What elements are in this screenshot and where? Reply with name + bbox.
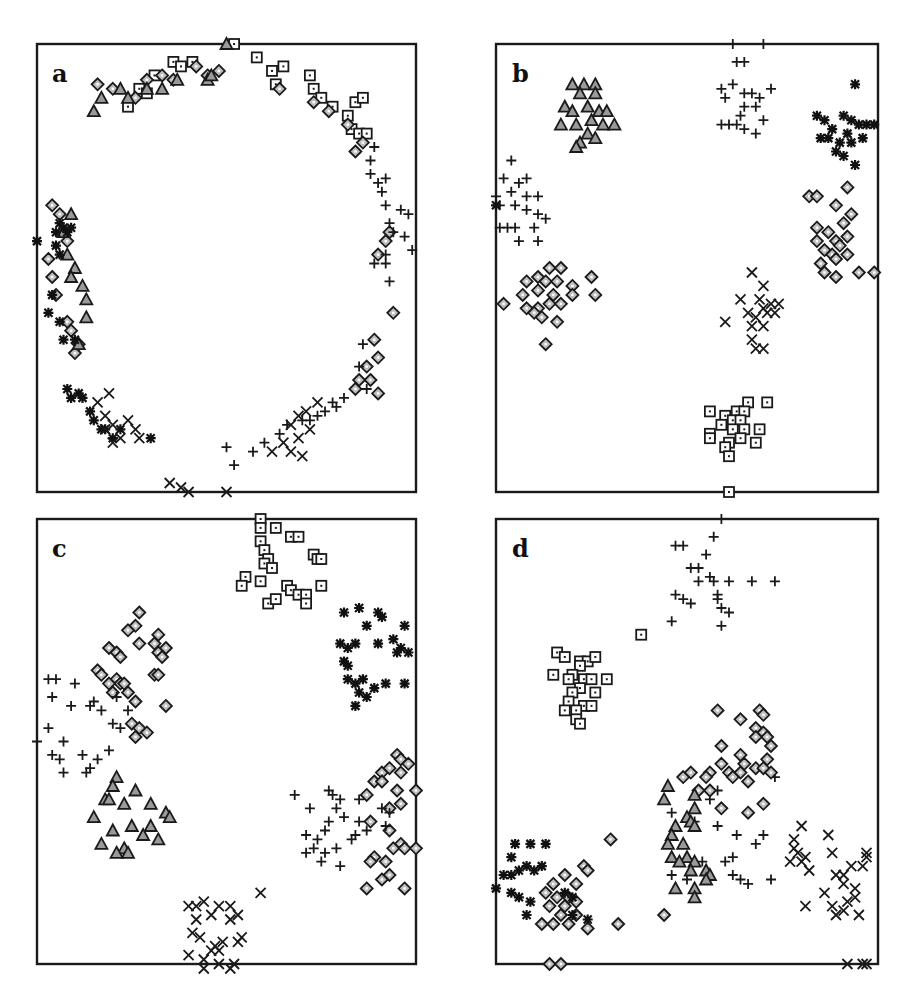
diamond-marker [715,758,727,770]
asterisk-marker [377,612,387,622]
plus-marker [724,608,734,618]
triangle-marker [126,820,138,831]
plus-marker [96,705,106,715]
asterisk-marker [354,603,364,613]
plus-marker [366,156,376,166]
asterisk-marker [858,133,868,143]
asterisk-marker [47,290,57,300]
triangle-marker [107,825,119,836]
diamond-marker [410,842,422,854]
asterisk-marker [350,639,360,649]
plus-marker [728,79,738,89]
square-marker [560,705,570,715]
diamond-marker [555,298,567,310]
asterisk-marker [522,861,532,871]
plus-marker [93,754,103,764]
x-marker [267,447,277,457]
plus-marker [331,843,341,853]
x-marker [797,821,807,831]
plus-marker [739,102,749,112]
series-x [184,888,266,974]
diamond-marker [532,284,544,296]
x-marker [850,883,860,893]
panel-label: d [512,534,529,563]
series-square [548,630,646,729]
diamond-marker [841,181,853,193]
x-marker [720,317,730,327]
diamond-marker [160,700,172,712]
plus-marker [510,200,520,210]
asterisk-marker [567,892,577,902]
plus-marker [66,701,76,711]
asterisk-marker [51,227,61,237]
square-marker [587,674,597,684]
diamond-marker [540,338,552,350]
plus-marker [694,563,704,573]
plus-marker [510,223,520,233]
diamond-marker [811,222,823,234]
x-marker [286,447,296,457]
plus-marker [339,812,349,822]
plus-marker [758,115,768,125]
x-marker [206,910,216,920]
x-marker [823,830,833,840]
plus-marker [385,276,395,286]
series-plus [667,514,780,889]
diamond-marker [395,767,407,779]
diamond-marker [589,289,601,301]
plus-marker [104,745,114,755]
plus-marker [275,429,285,439]
plus-marker [758,830,768,840]
diamond-marker [547,878,559,890]
asterisk-marker [66,393,76,403]
square-marker [256,576,266,586]
panel-frame [37,519,416,964]
diamond-marker [715,802,727,814]
x-marker [770,308,780,318]
series-asterisk [32,218,156,443]
triangle-marker [145,798,157,809]
diamond-marker [521,275,533,287]
square-marker [301,599,311,609]
scatter-figure: a b c d [0,0,908,994]
plus-marker [313,834,323,844]
asterisk-marker [358,674,368,684]
plus-marker [354,817,364,827]
asterisk-marker [820,115,830,125]
plus-marker [667,808,677,818]
x-marker [237,932,247,942]
square-marker [564,674,574,684]
square-marker [724,451,734,461]
series-diamond [92,607,422,895]
triangle-marker [662,780,674,791]
x-marker [804,866,814,876]
asterisk-marker [362,621,372,631]
diamond-marker [612,918,624,930]
asterisk-marker [55,250,65,260]
asterisk-marker [491,883,501,893]
x-marker [294,433,304,443]
asterisk-marker [499,870,509,880]
triangle-marker [77,280,89,291]
square-marker [636,630,646,640]
diamond-marker [551,275,563,287]
asterisk-marker [373,639,383,649]
triangle-marker [145,820,157,831]
plus-marker [758,39,768,49]
plus-marker [694,576,704,586]
asterisk-marker [850,79,860,89]
square-marker [252,52,262,62]
asterisk-marker [146,433,156,443]
plus-marker [47,692,57,702]
triangle-marker [658,793,670,804]
plus-marker [381,259,391,269]
x-marker [123,415,133,425]
diamond-marker [544,900,556,912]
plus-marker [369,142,379,152]
square-marker [294,532,304,542]
asterisk-marker [403,648,413,658]
series-plus [491,39,776,246]
plus-marker [78,750,88,760]
plus-marker [529,223,539,233]
series-asterisk [335,603,413,711]
